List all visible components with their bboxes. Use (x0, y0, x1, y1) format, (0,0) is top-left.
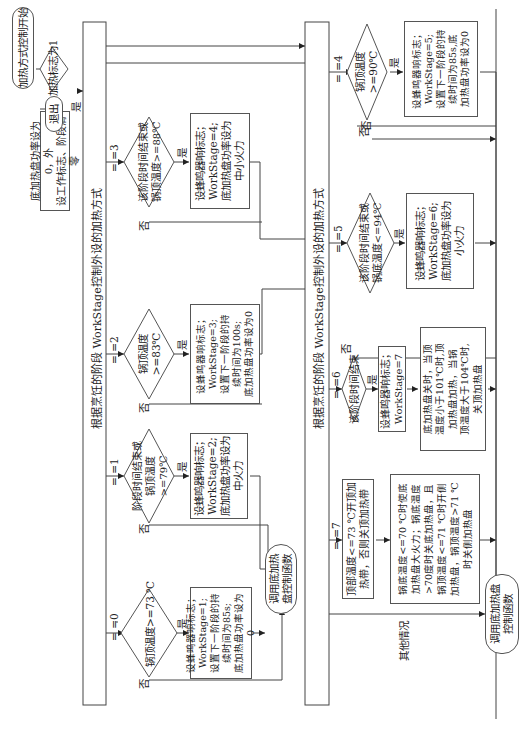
other-case-label: 其他情况 (398, 621, 410, 661)
case-2-label: = =2 (108, 336, 120, 364)
exit-terminal: 退出 (45, 96, 63, 132)
decision-4-yes: 是 (388, 58, 400, 68)
action-7b-box: 锅底温度<=70 ℃时使底 加热盘大火力；锅底温度 >70度时关底加热盘，且 锅… (390, 474, 480, 604)
action-4-box: 设蜂鸣器响标志； WorkStage=5; 设置下一阶段的持 续时间为85s,底… (404, 21, 478, 117)
decision-6-text: 该阶段时间结束 (346, 349, 362, 429)
case-7-label: = =7 (330, 522, 342, 550)
decision-0-no: 否 (138, 679, 150, 689)
flowchart-frame: 根据烹饪的阶段 WorkStage控制外设的加热方式 根据烹饪的阶段 WorkS… (0, 0, 524, 729)
decision-5-yes: 是 (393, 229, 405, 239)
case-0-label: = =0 (108, 613, 120, 641)
decision-3-yes: 是 (176, 148, 188, 158)
flag-decision-text: 加热标志为1 (44, 31, 62, 105)
action-2-box: 设蜂鸣器响标志； WorkStage=3; 设置下一阶段的持 续时间为100s;… (190, 304, 260, 404)
decision-3-text: 该阶段时间结束或 锅顶温度>=88℃ (137, 117, 163, 207)
call-function-2: 调用底加热盘 控制函数 (485, 574, 519, 654)
decision-0-text: 锅顶温度>=73 ℃ (140, 579, 160, 669)
decision-2-text: 锅顶温度>=83℃ (140, 314, 160, 394)
case-4-label: = =4 (332, 55, 344, 83)
decision-1-yes: 是 (176, 462, 188, 472)
call-function-1: 调用底加热 盘控制函数 (265, 544, 297, 614)
case-3-label: = =3 (108, 144, 120, 172)
section-title-top: 根据烹饪的阶段 WorkStage控制外设的加热方式 (88, 188, 104, 429)
decision-1-text: 阶段时间结束或 锅顶温度>=79℃ (137, 436, 163, 516)
action-5-box: 设蜂鸣器响标志； WorkStage=6; 底加热盘功率设为 小火力 (406, 193, 474, 289)
case-5-label: = =5 (332, 225, 344, 253)
decision-1-no: 否 (138, 524, 150, 534)
decision-2-no: 否 (138, 403, 150, 413)
decision-5-no: 否 (360, 121, 372, 131)
decision-5-text: 该阶段时间结束或 锅底温度<=94℃ (358, 198, 384, 288)
decision-2-yes: 是 (176, 340, 188, 350)
decision-6-no: 否 (340, 344, 352, 354)
action-7-box: 顶部温度<=73 ℃开顶加 热带，否则关顶加热带 (342, 479, 374, 599)
decision-3-no: 否 (138, 221, 150, 231)
flowchart-canvas: 根据烹饪的阶段 WorkStage控制外设的加热方式 根据烹饪的阶段 WorkS… (0, 0, 524, 729)
action-6-box: 设蜂鸣器响标志； WorkStage=7 (378, 346, 406, 432)
decision-6-yes: 是 (366, 375, 378, 385)
case-6-label: = =6 (330, 371, 342, 399)
section-title-bottom: 根据烹饪的阶段 WorkStage控制外设的加热方式 (310, 188, 326, 429)
decision-4-text: 锅顶温度>=90℃ (357, 32, 377, 112)
case-1-label: = =1 (108, 458, 120, 486)
action-6b-box: 底加热盘关时，当顶 温度小于101℃时,顶 加热盘加热，当锅 顶温度大于104℃… (420, 327, 486, 451)
start-terminal: 加热方式控制开始 (12, 7, 34, 89)
action-1-box: 设蜂鸣器响标志； WorkStage=2; 底加热盘功率设为 中火力 (190, 433, 248, 519)
flag-yes-label: 是 (70, 102, 82, 112)
action-3-box: 设蜂鸣器响标志； WorkStage=4; 底加热盘功率设为 中小火力 (190, 113, 250, 209)
action-0-box: 设蜂鸣器响标志； WorkStage=1; 设置下一阶段的持 续时间为85s; … (190, 587, 252, 679)
